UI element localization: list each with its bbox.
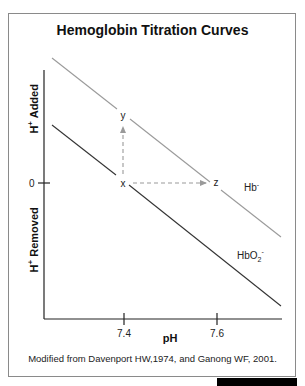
- y-tick-label-zero: 0: [29, 178, 35, 189]
- x-tick-label-7-6: 7.6: [210, 328, 224, 339]
- point-label-y: y: [121, 110, 126, 121]
- series-label-hb: Hb-: [244, 181, 260, 193]
- y-axis-label-removed: H+ Removed: [26, 190, 40, 290]
- hb-line: [52, 58, 117, 109]
- figure-caption: Modified from Davenport HW,1974, and Gan…: [0, 353, 305, 364]
- hbo2-line: [52, 125, 116, 175]
- point-label-z: z: [214, 177, 219, 188]
- x-axis-label: pH: [163, 332, 178, 344]
- x-tick-label-7-4: 7.4: [117, 328, 131, 339]
- hb-line-segment: [221, 190, 281, 237]
- plot-area: 0 7.4 7.6 pH y x z Hb- HbO2-: [0, 0, 305, 386]
- black-bar: [217, 378, 297, 386]
- y-axis-label-added: H+ Added: [26, 59, 40, 159]
- hb-line-segment: [130, 119, 210, 182]
- hbo2-line-segment: [129, 185, 281, 306]
- point-label-x: x: [121, 178, 126, 189]
- series-label-hbo2: HbO2-: [237, 248, 264, 263]
